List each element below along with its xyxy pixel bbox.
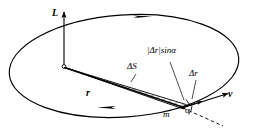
label-swept-area: ΔS	[127, 62, 137, 71]
label-perpendicular-component: |Δr|sinα	[147, 46, 176, 55]
label-angular-momentum: L	[52, 8, 58, 18]
swept-area-leader	[131, 74, 136, 82]
orbit-ellipse	[6, 7, 243, 125]
displacement-leader	[192, 80, 196, 99]
label-radius-vector: r	[86, 88, 90, 98]
label-mass: m	[163, 110, 170, 119]
figure-root: L r ΔS |Δr|sinα Δr v m α	[0, 0, 254, 135]
orbit-direction-arrow-bottom	[97, 106, 116, 109]
perpendicular-leader	[170, 62, 190, 105]
orbit-direction-arrow-top	[133, 16, 152, 18]
label-displacement: Δr	[189, 69, 198, 78]
radius-vector	[65, 68, 185, 108]
label-angle: α	[185, 106, 190, 115]
label-velocity: v	[228, 89, 232, 99]
